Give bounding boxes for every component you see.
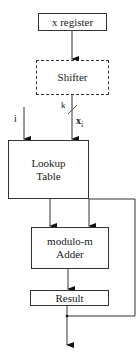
x-register-box: x register xyxy=(38,13,107,31)
shifter-box: Shifter xyxy=(36,60,109,95)
adder-label-line2: Adder xyxy=(56,248,84,261)
shifter-label: Shifter xyxy=(58,71,88,84)
junction-dot xyxy=(66,315,69,318)
adder-label-line1: modulo-m xyxy=(47,235,93,248)
lookup-label-line1: Lookup xyxy=(31,157,65,170)
lookup-label-line2: Table xyxy=(36,170,60,183)
result-label: Result xyxy=(55,292,83,305)
x-input-label: xi xyxy=(76,115,83,129)
k-width-label: k xyxy=(61,100,66,110)
modulo-adder-box: modulo-m Adder xyxy=(31,227,109,269)
x-subscript: i xyxy=(81,120,83,129)
i-input-label: i xyxy=(14,113,17,124)
x-register-label: x register xyxy=(52,16,93,29)
result-box: Result xyxy=(30,290,109,306)
lookup-table-box: Lookup Table xyxy=(8,140,89,199)
